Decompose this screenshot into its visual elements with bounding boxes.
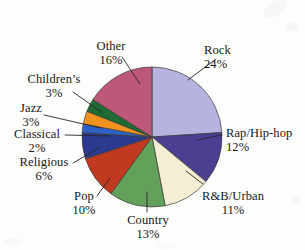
slice-label-other: Other 16% [85, 40, 137, 67]
slice-label-country: Country 13% [111, 214, 185, 241]
slice-label-country-pct: 13% [111, 228, 185, 242]
slice-label-other-name: Other [97, 39, 126, 53]
slice-label-other-pct: 16% [85, 54, 137, 68]
slice-label-religious: Religious 6% [14, 156, 74, 183]
pie-slices [82, 67, 222, 207]
slice-label-rnb-name: R&B/Urban [202, 189, 264, 203]
slice-label-rock-name: Rock [204, 43, 231, 57]
slice-label-rap: Rap/Hip-hop 12% [226, 127, 292, 154]
slice-label-religious-name: Religious [20, 155, 69, 169]
slice-label-pop-name: Pop [74, 189, 94, 203]
slice-label-jazz: Jazz 3% [14, 102, 48, 129]
slice-label-childrens-name: Children’s [27, 72, 80, 86]
slice-label-classical-pct: 2% [9, 142, 65, 156]
slice-label-rnb: R&B/Urban 11% [190, 190, 276, 217]
slice-label-rap-name: Rap/Hip-hop [226, 126, 292, 140]
slice-label-jazz-name: Jazz [20, 101, 42, 115]
slice-label-jazz-pct: 3% [14, 116, 48, 130]
slice-label-country-name: Country [127, 213, 169, 227]
slice-label-rock: Rock 24% [204, 44, 231, 71]
slice-label-pop: Pop 10% [62, 190, 106, 217]
slice-label-rap-pct: 12% [226, 141, 292, 155]
slice-label-classical: Classical 2% [9, 128, 65, 155]
pie-chart-figure: Rock 24% Rap/Hip-hop 12% R&B/Urban 11% C… [0, 0, 305, 250]
slice-label-religious-pct: 6% [14, 170, 74, 184]
slice-label-pop-pct: 10% [62, 204, 106, 218]
pie-slice-rock [152, 67, 222, 137]
slice-label-rnb-pct: 11% [190, 204, 276, 218]
slice-label-classical-name: Classical [14, 127, 60, 141]
slice-label-childrens: Children’s 3% [21, 73, 87, 100]
slice-label-childrens-pct: 3% [21, 87, 87, 101]
slice-label-rock-pct: 24% [204, 58, 231, 72]
